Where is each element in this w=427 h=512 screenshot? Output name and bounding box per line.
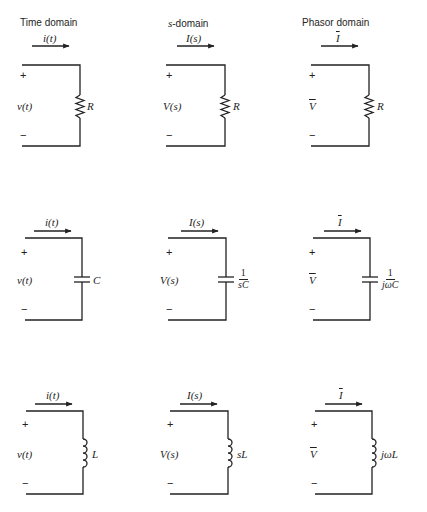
resistor-icon xyxy=(365,95,373,118)
capacitor-circuit-time xyxy=(25,231,90,320)
inductor-icon xyxy=(83,439,87,467)
current-label: i(t) xyxy=(43,33,56,44)
voltage-label: V xyxy=(309,275,316,286)
minus-sign: − xyxy=(22,478,28,489)
voltage-label: V(s) xyxy=(160,275,178,286)
resistor-icon xyxy=(221,95,229,118)
impedance-label: sL xyxy=(237,449,247,460)
minus-sign: − xyxy=(166,304,172,315)
resistor-circuit-phasor xyxy=(311,46,373,146)
minus-sign: − xyxy=(167,478,173,489)
plus-sign: + xyxy=(21,247,27,258)
plus-sign: + xyxy=(167,419,173,430)
capacitor-icon xyxy=(362,277,378,282)
impedance-label: C xyxy=(93,275,100,286)
minus-sign: − xyxy=(166,130,172,141)
impedance-fraction: 1 jωC xyxy=(381,268,400,290)
capacitor-icon xyxy=(74,277,90,282)
voltage-label: V(s) xyxy=(160,449,178,460)
current-label: I xyxy=(339,390,343,401)
impedance-label: R xyxy=(377,101,384,112)
current-label: I(s) xyxy=(187,390,202,401)
inductor-circuit-phasor xyxy=(315,404,376,494)
impedance-label: R xyxy=(233,101,240,112)
current-label: I(s) xyxy=(189,217,204,228)
plus-sign: + xyxy=(166,70,172,81)
plus-sign: + xyxy=(309,247,315,258)
inductor-circuit-s xyxy=(170,404,232,494)
impedance-numerator: 1 xyxy=(386,268,395,280)
minus-sign: − xyxy=(21,304,27,315)
capacitor-circuit-phasor xyxy=(313,231,378,320)
impedance-label: jωL xyxy=(381,449,398,460)
voltage-label: V xyxy=(310,449,317,460)
voltage-label: V xyxy=(309,101,316,112)
circuit-diagrams xyxy=(0,0,427,512)
plus-sign: + xyxy=(166,247,172,258)
inductor-circuit-time xyxy=(26,404,87,494)
inductor-icon xyxy=(372,439,376,467)
plus-sign: + xyxy=(309,70,315,81)
impedance-denominator: sC xyxy=(237,280,250,291)
impedance-numerator: 1 xyxy=(239,268,248,280)
resistor-circuit-time xyxy=(22,46,84,146)
voltage-label: v(t) xyxy=(17,101,32,112)
minus-sign: − xyxy=(309,130,315,141)
impedance-denominator: jωC xyxy=(381,280,400,291)
impedance-label: R xyxy=(87,101,94,112)
capacitor-icon xyxy=(218,277,234,282)
current-label: I(s) xyxy=(186,33,201,44)
impedance-fraction: 1 sC xyxy=(237,268,250,290)
current-label: I xyxy=(336,33,340,44)
resistor-icon xyxy=(76,95,84,118)
plus-sign: + xyxy=(311,419,317,430)
current-label: i(t) xyxy=(46,390,59,401)
impedance-label: L xyxy=(92,449,98,460)
minus-sign: − xyxy=(311,478,317,489)
current-label: i(t) xyxy=(45,217,58,228)
inductor-icon xyxy=(228,439,232,467)
plus-sign: + xyxy=(22,419,28,430)
voltage-label: V(s) xyxy=(163,101,181,112)
plus-sign: + xyxy=(20,70,26,81)
minus-sign: − xyxy=(309,304,315,315)
current-label: I xyxy=(338,217,342,228)
minus-sign: − xyxy=(20,130,26,141)
resistor-circuit-s xyxy=(166,46,229,146)
voltage-label: v(t) xyxy=(17,449,32,460)
voltage-label: v(t) xyxy=(17,275,32,286)
